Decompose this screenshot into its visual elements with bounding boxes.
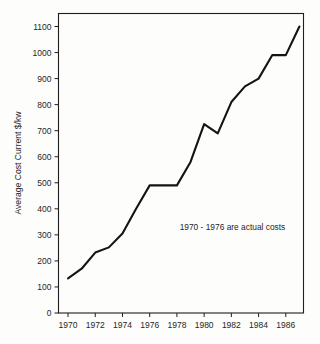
x-tick-label: 1978 (167, 320, 186, 330)
x-tick-label: 1972 (86, 320, 105, 330)
x-tick-label: 1974 (113, 320, 132, 330)
y-tick-label: 200 (37, 256, 51, 266)
chart-annotation-text: 1970 - 1976 are actual costs (180, 222, 286, 232)
y-axis-title: Average Cost Current $/kw (13, 111, 23, 215)
y-tick-label: 100 (37, 282, 51, 292)
cost-line-series (68, 27, 299, 279)
y-tick-label: 0 (47, 308, 52, 318)
y-axis-ticks (55, 27, 59, 313)
y-axis-tick-labels: 010020030040050060070080090010001100 (33, 22, 52, 318)
y-tick-label: 900 (37, 74, 51, 84)
x-axis-ticks (68, 313, 286, 317)
y-tick-label: 700 (37, 126, 51, 136)
y-tick-label: 400 (37, 204, 51, 214)
x-tick-label: 1982 (222, 320, 241, 330)
x-tick-label: 1976 (140, 320, 159, 330)
plot-area-border (59, 14, 304, 314)
line-chart: 010020030040050060070080090010001100 197… (0, 0, 320, 344)
data-series-group (68, 27, 299, 279)
x-tick-label: 1980 (195, 320, 214, 330)
x-tick-label: 1970 (59, 320, 78, 330)
y-tick-label: 300 (37, 230, 51, 240)
x-tick-label: 1986 (276, 320, 295, 330)
chart-figure: 010020030040050060070080090010001100 197… (0, 0, 320, 344)
y-tick-label: 800 (37, 100, 51, 110)
y-tick-label: 600 (37, 152, 51, 162)
x-tick-label: 1984 (249, 320, 268, 330)
y-tick-label: 1100 (33, 22, 52, 32)
x-axis-tick-labels: 197019721974197619781980198219841986 (59, 320, 296, 330)
plot-frame (59, 14, 304, 314)
chart-annotations: 1970 - 1976 are actual costs (180, 222, 286, 232)
y-tick-label: 500 (37, 178, 51, 188)
y-tick-label: 1000 (33, 48, 52, 58)
